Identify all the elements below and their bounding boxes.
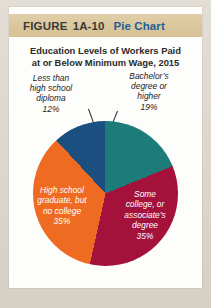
figure-header-band: FIGURE 1A-10 Pie Chart xyxy=(9,14,202,37)
label-bachelors-degree: Bachelor’s degree or higher 19% xyxy=(111,71,187,112)
figure-number: 1A-10 xyxy=(73,20,105,32)
label-somecoll-line-4: degree xyxy=(105,220,185,230)
subtitle-line-1: Education Levels of Workers Paid xyxy=(17,45,194,57)
label-bachelors-line-1: Bachelor’s xyxy=(111,71,187,81)
pie-chart: Less than high school diploma 12% Bachel… xyxy=(9,71,202,283)
figure-subtitle: Education Levels of Workers Paid at or B… xyxy=(9,45,202,70)
label-hsgrad-value: 35% xyxy=(20,216,104,226)
subtitle-line-2: at or Below Minimum Wage, 2015 xyxy=(17,57,194,69)
label-hsgrad-line-3: no college xyxy=(20,206,104,216)
label-somecoll-line-3: associate’s xyxy=(105,210,185,220)
label-lths-value: 12% xyxy=(15,104,87,114)
figure-type: Pie Chart xyxy=(113,20,164,32)
label-high-school-graduate: High school graduate, but no college 35% xyxy=(20,185,104,227)
label-lths-line-2: high school xyxy=(15,83,87,93)
figure-page: FIGURE 1A-10 Pie Chart Education Levels … xyxy=(0,0,211,308)
label-some-college: Some college, or associate’s degree 35% xyxy=(105,189,185,241)
label-bachelors-line-2: degree or xyxy=(111,81,187,91)
label-somecoll-line-1: Some xyxy=(105,189,185,199)
label-less-than-high-school: Less than high school diploma 12% xyxy=(15,73,87,114)
label-somecoll-line-2: college, or xyxy=(105,199,185,209)
label-somecoll-value: 35% xyxy=(105,231,185,241)
label-hsgrad-line-1: High school xyxy=(20,185,104,195)
label-bachelors-line-3: higher xyxy=(111,91,187,101)
label-lths-line-3: diploma xyxy=(15,93,87,103)
label-bachelors-value: 19% xyxy=(111,102,187,112)
label-lths-line-1: Less than xyxy=(15,73,87,83)
figure-card: FIGURE 1A-10 Pie Chart Education Levels … xyxy=(9,7,202,288)
label-hsgrad-line-2: graduate, but xyxy=(20,195,104,205)
figure-label: FIGURE xyxy=(23,20,68,32)
